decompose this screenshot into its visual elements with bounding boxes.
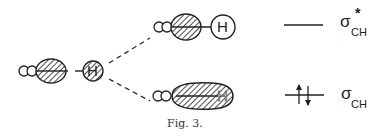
dashed-line-lower [109, 79, 150, 101]
ch-subscript: CH [351, 98, 367, 110]
sigma-symbol: σ [341, 84, 352, 104]
ch-subscript: CH [351, 26, 367, 38]
left-h-label: H [87, 62, 98, 79]
sigma-symbol: σ [340, 12, 351, 32]
figure-caption: Fig. 3. [167, 117, 203, 130]
antibonding-h-label: H [217, 18, 228, 35]
bonding-h-label: H [217, 87, 228, 104]
antibonding-label: σ * CH [340, 8, 384, 38]
bonding-label: σ CH [341, 80, 384, 110]
star-superscript: * [355, 5, 360, 21]
dashed-line-upper [109, 38, 150, 63]
